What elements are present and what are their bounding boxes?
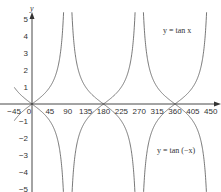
x-tick-label: −45 bbox=[7, 107, 21, 116]
x-tick-label: 450 bbox=[204, 107, 218, 116]
x-tick-label: 90 bbox=[63, 107, 72, 116]
axes bbox=[0, 12, 221, 192]
curves bbox=[14, 12, 206, 192]
y-tick-label: 5 bbox=[24, 15, 29, 24]
curve-branch bbox=[72, 12, 135, 192]
curve-branch bbox=[143, 12, 206, 192]
y-tick-label: 2 bbox=[24, 66, 29, 75]
y-tick-label: 1 bbox=[24, 83, 29, 92]
x-tick-label: 45 bbox=[45, 107, 54, 116]
y-tick-label: −2 bbox=[19, 134, 29, 143]
y-tick-label: −5 bbox=[19, 185, 29, 192]
curve-label-tan-neg-x: y = tan (−x) bbox=[157, 146, 195, 155]
x-tick-label: 180 bbox=[97, 107, 111, 116]
curve-branch bbox=[143, 12, 206, 192]
y-tick-label: −1 bbox=[19, 117, 29, 126]
curve-label-tan-x: y = tan x bbox=[163, 26, 191, 35]
x-tick-label: 0 bbox=[27, 107, 32, 116]
curve-branch bbox=[72, 12, 135, 192]
y-tick-label: 3 bbox=[24, 49, 29, 58]
x-tick-label: 225 bbox=[115, 107, 129, 116]
y-tick-label: −4 bbox=[19, 168, 29, 177]
x-tick-label: 315 bbox=[150, 107, 164, 116]
x-tick-label: 405 bbox=[186, 107, 200, 116]
x-tick-label: 270 bbox=[133, 107, 147, 116]
x-tick-label: 135 bbox=[79, 107, 93, 116]
y-axis-label: y bbox=[29, 4, 34, 13]
tick-labels: −4504590135180225270315360405450−5−4−3−2… bbox=[7, 15, 218, 192]
y-tick-label: −3 bbox=[19, 151, 29, 160]
tan-chart: −4504590135180225270315360405450−5−4−3−2… bbox=[0, 0, 221, 192]
x-tick-label: 360 bbox=[168, 107, 182, 116]
y-tick-label: 4 bbox=[24, 32, 29, 41]
